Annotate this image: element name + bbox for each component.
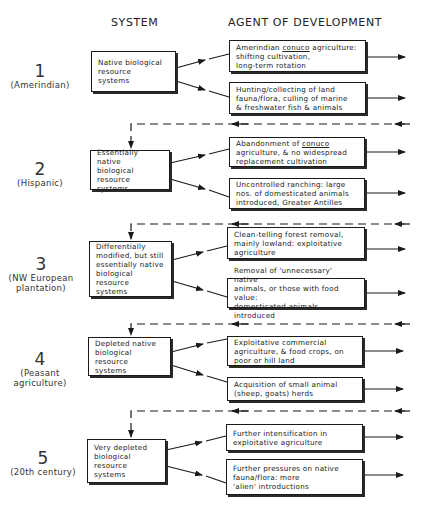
stage-3-agent-box-2: Removal of 'unnecessary' native animals,…: [227, 278, 365, 308]
text-line: biological resource: [94, 452, 159, 470]
stage-3-agent-box-1: Clean-telling forest removal, mainly low…: [227, 227, 365, 259]
text-line: nos. of domesticated animals: [236, 189, 349, 198]
text-line: systems: [98, 76, 162, 85]
stage-number: 1: [2, 62, 78, 80]
stage-period: (Amerindian): [2, 80, 78, 90]
stage-5-agent-box-2: Further pressures on native fauna/flora:…: [226, 459, 363, 495]
text-line: fauna/flora, culling of marine: [236, 94, 348, 103]
text-line: essentially native: [96, 260, 165, 269]
text-underlined: conuco: [302, 139, 329, 148]
stage-period: (Peasant agriculture): [2, 368, 78, 388]
text-line: Native biological: [98, 58, 162, 67]
stage-5-agent-box-1: Further intensification in exploitative …: [226, 424, 363, 451]
text-line: systems: [94, 470, 159, 479]
text-line: resource: [98, 67, 162, 76]
text-line: agriculture, & food crops, on: [234, 347, 344, 356]
text-line: 'alien' introductions: [233, 482, 339, 491]
stage-2-label: 2 (Hispanic): [2, 160, 78, 188]
text-line: systems: [97, 184, 163, 193]
stage-4-agent-box-2: Acquisition of small animal (sheep, goat…: [227, 377, 363, 401]
text-line: domesticated animals introduced: [234, 302, 358, 320]
text-line: Further pressures on native: [233, 464, 339, 473]
text-line: Depleted native: [95, 339, 164, 348]
text-line: & freshwater fish & animals: [236, 103, 348, 112]
stage-1-agent-box-1: Amerindian conuco agriculture: shifting …: [229, 40, 366, 72]
text-line: shifting cultivation,: [236, 52, 357, 61]
stage-4-label: 4 (Peasant agriculture): [2, 350, 78, 388]
text-line: Hunting/collecting of land: [236, 85, 348, 94]
text-line: animals, or those with food value:: [234, 284, 358, 302]
text-line: Very depleted: [94, 443, 159, 452]
stage-number: 5: [0, 449, 86, 467]
text-line: agriculture, & no widespread: [236, 148, 347, 157]
header-system: SYSTEM: [111, 16, 158, 29]
text-line: (sheep, goats) herds: [234, 389, 337, 398]
stage-number: 3: [0, 255, 82, 273]
text-line: biological resource: [95, 348, 164, 366]
text-line: Clean-telling forest removal,: [234, 230, 343, 239]
stage-1-agent-box-2: Hunting/collecting of land fauna/flora, …: [229, 82, 366, 114]
stage-number: 2: [2, 160, 78, 178]
text-line: agriculture: [234, 248, 343, 257]
stage-4-agent-box-1: Exploitative commercial agriculture, & f…: [227, 336, 363, 366]
text-line: Uncontrolled ranching: large: [236, 180, 349, 189]
text-fragment: Amerindian: [236, 43, 282, 52]
text-line: systems: [96, 287, 165, 296]
text-underlined: conuco: [282, 43, 309, 52]
text-line: Acquisition of small animal: [234, 380, 337, 389]
text-line: systems: [95, 366, 164, 375]
stage-3-label: 3 (NW European plantation): [0, 255, 82, 293]
stage-period: (20th century): [0, 467, 86, 477]
text-line: poor or hill land: [234, 356, 344, 365]
text-line: modified, but still: [96, 251, 165, 260]
stage-1-label: 1 (Amerindian): [2, 62, 78, 90]
text-line: Differentially: [96, 242, 165, 251]
stage-5-label: 5 (20th century): [0, 449, 86, 477]
stage-period: (NW European plantation): [0, 273, 82, 293]
text-line: biological resource: [96, 269, 165, 287]
stage-1-system-box: Native biological resource systems: [91, 51, 176, 92]
stage-2-agent-box-1: Abandonment of conuco agriculture, & no …: [229, 137, 365, 167]
stage-number: 4: [2, 350, 78, 368]
text-line: Removal of 'unnecessary' native: [234, 266, 358, 284]
stage-3-system-box: Differentially modified, but still essen…: [89, 241, 172, 297]
stage-period: (Hispanic): [2, 178, 78, 188]
text-line: Essentially native: [97, 148, 163, 166]
text-line: long-term rotation: [236, 61, 357, 70]
text-fragment: agriculture:: [310, 43, 357, 52]
text-line: mainly lowland: exploitative: [234, 239, 343, 248]
text-line: fauna/flora: more: [233, 473, 339, 482]
stage-5-system-box: Very depleted biological resource system…: [87, 439, 166, 483]
header-agent-of-development: AGENT OF DEVELOPMENT: [228, 16, 382, 29]
text-line: replacement cultivation: [236, 157, 347, 166]
stage-2-system-box: Essentially native biological resource s…: [90, 150, 170, 190]
stage-2-agent-box-2: Uncontrolled ranching: large nos. of dom…: [229, 178, 365, 209]
stage-4-system-box: Depleted native biological resource syst…: [88, 337, 171, 376]
text-line: biological resource: [97, 166, 163, 184]
text-line: Further intensification in: [233, 429, 327, 438]
text-line: introduced, Greater Antilles: [236, 198, 349, 207]
text-line: Exploitative commercial: [234, 338, 344, 347]
text-fragment: Abandonment of: [236, 139, 302, 148]
text-line: exploitative agriculture: [233, 438, 327, 447]
